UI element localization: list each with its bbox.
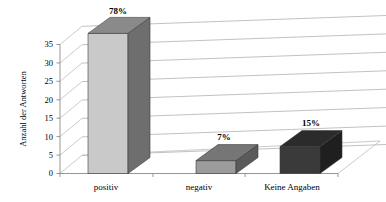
x-axis-ticks [60, 174, 338, 178]
y-axis-ticks [57, 45, 61, 174]
bar-value-label-negativ: 7% [217, 132, 231, 142]
y-tick-label: 0 [49, 168, 53, 178]
y-tick-label: 30 [45, 58, 54, 68]
bar-keine-angaben[interactable] [280, 131, 342, 174]
y-tick-label: 20 [45, 95, 54, 105]
bar-positiv[interactable] [88, 17, 150, 173]
bar-chart-3d: 0 5 10 15 20 25 30 35 Anzahl der Antwort… [0, 0, 386, 202]
bar-negativ[interactable] [196, 145, 258, 174]
bar-value-label-positiv: 78% [109, 6, 127, 16]
y-tick-label: 15 [45, 113, 54, 123]
x-category-label-negativ: negativ [186, 182, 213, 192]
x-category-label-keine-angaben: Keine Angaben [264, 182, 320, 192]
y-tick-label: 25 [45, 76, 54, 86]
depth-connectors [60, 26, 82, 173]
y-tick-label: 10 [45, 132, 54, 142]
chart-container: 0 5 10 15 20 25 30 35 Anzahl der Antwort… [0, 0, 386, 202]
y-tick-label: 5 [49, 150, 53, 160]
bar-value-label-keine-angaben: 15% [302, 118, 320, 128]
y-axis-title: Anzahl der Antworten [18, 70, 28, 146]
y-tick-label: 35 [45, 39, 54, 49]
x-category-label-positiv: positiv [94, 182, 119, 192]
